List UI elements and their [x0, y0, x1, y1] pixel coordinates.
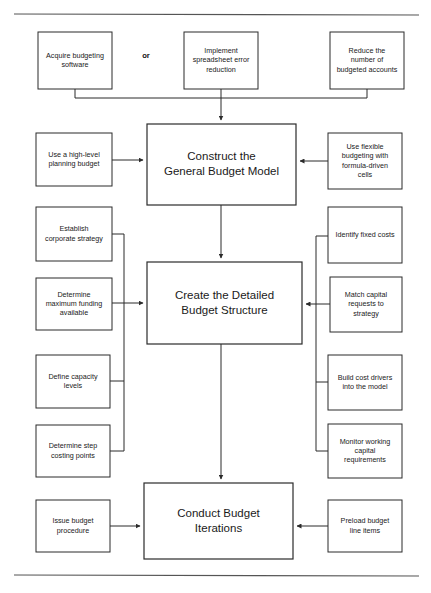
node-label-line: requirements	[344, 455, 386, 464]
flowchart-canvas: Acquire budgetingsoftwareImplementspread…	[0, 0, 431, 593]
node-label-line: Issue budget	[52, 516, 93, 525]
node-label-line: planning budget	[48, 159, 99, 168]
bottom-divider-rule	[14, 575, 419, 576]
or-connector-label: or	[142, 51, 150, 60]
node-build-cost-drivers-into-the-model[interactable]: Build cost driversinto the model	[328, 355, 402, 410]
node-label-line: levels	[64, 381, 83, 390]
node-preload-budget-line-items[interactable]: Preload budgetline items	[328, 500, 402, 552]
node-match-capital-requests-to-strategy[interactable]: Match capitalrequests tostrategy	[330, 277, 402, 332]
node-conduct[interactable]: Conduct BudgetIterations	[144, 483, 293, 559]
node-label-line: costing points	[51, 451, 95, 460]
node-label-line: Reduce the	[349, 46, 386, 55]
node-label-line: number of	[351, 55, 383, 64]
node-use-high-level-planning-budget[interactable]: Use a high-levelplanning budget	[36, 133, 112, 186]
node-determine-step-costing-points[interactable]: Determine stepcosting points	[36, 425, 110, 477]
node-use-flexible-budgeting-formula-driven-cells[interactable]: Use flexiblebudgeting withformula-driven…	[328, 133, 402, 189]
node-label-line: Acquire budgeting	[46, 51, 104, 60]
edge-group-left-bus-create	[110, 234, 143, 451]
node-label-line: cells	[358, 170, 373, 179]
node-label-line: Construct the	[187, 150, 255, 162]
node-implement-spreadsheet-error-reduction[interactable]: Implementspreadsheet errorreduction	[184, 32, 258, 89]
node-label-line: available	[60, 308, 88, 317]
node-label-line: Implement	[204, 46, 238, 55]
node-label-line: Establish	[59, 224, 88, 233]
node-establish-corporate-strategy[interactable]: Establishcorporate strategy	[36, 207, 112, 261]
node-label-line: Budget Structure	[181, 304, 267, 316]
node-label-line: Define capacity	[48, 372, 98, 381]
node-label-line: Determine	[57, 290, 90, 299]
edge-group-right-bus-create	[306, 236, 330, 451]
edge-group-top-merge	[75, 89, 367, 120]
node-label-line: software	[61, 60, 88, 69]
node-create[interactable]: Create the DetailedBudget Structure	[147, 262, 302, 344]
node-label-line: line items	[350, 526, 381, 535]
node-label-line: Preload budget	[341, 516, 390, 525]
node-determine-maximum-funding-available[interactable]: Determinemaximum fundingavailable	[36, 278, 112, 330]
node-label-line: spreadsheet error	[193, 55, 250, 64]
node-construct[interactable]: Construct theGeneral Budget Model	[147, 124, 296, 205]
node-label-line: Use a high-level	[48, 150, 100, 159]
node-monitor-working-capital-requirements[interactable]: Monitor workingcapitalrequirements	[328, 424, 402, 478]
node-label-line: Determine step	[49, 441, 98, 450]
node-label-line: formula-driven	[342, 161, 388, 170]
node-identify-fixed-costs[interactable]: Identify fixed costs	[328, 207, 402, 263]
node-label-line: Iterations	[195, 522, 243, 534]
node-label-line: General Budget Model	[164, 165, 279, 177]
node-label-line: Conduct Budget	[177, 507, 260, 519]
node-define-capacity-levels[interactable]: Define capacitylevels	[36, 355, 110, 408]
node-label-line: procedure	[57, 526, 89, 535]
node-label-line: corporate strategy	[45, 234, 103, 243]
node-label-line: reduction	[206, 65, 236, 74]
budget-flowchart: Acquire budgetingsoftwareImplementspread…	[0, 0, 431, 593]
node-label-line: Match capital	[345, 290, 388, 299]
node-label-line: capital	[355, 446, 376, 455]
node-reduce-number-of-budgeted-accounts[interactable]: Reduce thenumber ofbudgeted accounts	[330, 32, 404, 89]
node-label-line: Build cost drivers	[338, 373, 393, 382]
node-acquire-budgeting-software[interactable]: Acquire budgetingsoftware	[38, 32, 112, 89]
node-label-line: into the model	[342, 382, 388, 391]
node-label-line: maximum funding	[46, 299, 103, 308]
node-label-line: Monitor working	[340, 437, 391, 446]
node-label-line: budgeted accounts	[337, 65, 398, 74]
top-divider-rule	[14, 14, 419, 15]
node-issue-budget-procedure[interactable]: Issue budgetprocedure	[36, 500, 110, 552]
node-label-line: Use flexible	[346, 142, 383, 151]
node-label-line: Identify fixed costs	[335, 230, 395, 239]
nodes-layer: Acquire budgetingsoftwareImplementspread…	[36, 32, 404, 559]
node-label-line: strategy	[353, 309, 379, 318]
node-label-line: budgeting with	[342, 151, 388, 160]
node-label-line: Create the Detailed	[175, 289, 274, 301]
node-label-line: requests to	[348, 299, 384, 308]
